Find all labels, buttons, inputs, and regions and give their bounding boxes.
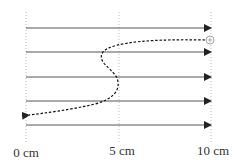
positive-charge-icon — [206, 36, 214, 44]
field-lines — [26, 28, 211, 125]
label-0cm: 0 cm — [13, 145, 39, 160]
label-10cm: 10 cm — [197, 143, 229, 158]
diagram-canvas: 0 cm 5 cm 10 cm — [0, 0, 235, 165]
label-5cm: 5 cm — [109, 143, 135, 158]
